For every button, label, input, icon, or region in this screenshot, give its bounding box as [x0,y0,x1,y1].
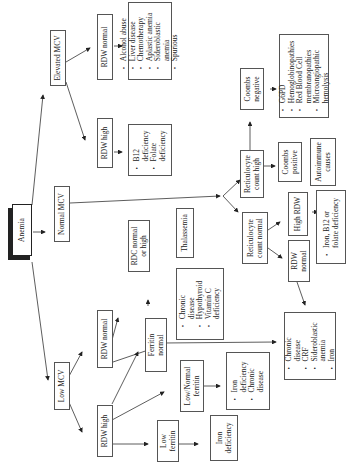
node-label: RDW high [101,127,110,160]
node-elevated-mcv: Elevated MCV [50,30,66,86]
cause-item: anemia [319,322,328,369]
node-elevated-rdw-high: RDW high [97,118,113,168]
node-coombs-negative: Coombsnegative [240,68,264,110]
node-label: or high [139,227,148,266]
cause-item: Spurious [171,13,180,70]
cause-item: disease [257,361,266,400]
node-low-rdw-high: RDW high [97,405,113,457]
node-low-rdw-normal-causes: Chronic disease Hypothyroid Vitamin C de… [176,268,224,340]
node-label: deficiency [224,422,233,453]
node-rdc-normal-or-high: RDC normalor high [128,220,150,272]
cause-item: deficiency [213,281,222,327]
node-label: Low MCV [58,370,67,403]
node-ferritin-normal: Ferritinnormal [145,318,167,372]
node-chronic-causes: Chronic disease CRF Sideroblastic anemia… [284,312,336,380]
node-elevated-rdw-high-causes: B12 deficiency Folate deficiency [128,124,172,176]
node-label: Thalassemia [181,214,190,252]
node-label: positive [290,149,299,174]
node-label: normal [299,250,308,271]
node-label: RDW high [101,415,110,448]
node-autoimmune: Autoimmunecauses [310,138,336,186]
node-label: negative [252,76,261,101]
cause-item: deficiency [159,130,168,169]
node-label: ferritin [192,367,201,406]
node-low-ferritin: Lowferritin [157,420,179,462]
node-label: Normal MCV [58,193,67,235]
node-label: High RDW [294,197,303,231]
node-label: count normal [255,218,264,258]
cause-item: disease [293,322,302,369]
node-label: causes [323,142,332,182]
node-label: Elevated MCV [54,35,63,80]
node-lownormal-ferritin: Low/Normalferritin [180,360,204,412]
node-iron-deficiency: Irondeficiency [210,415,238,461]
node-coombs-positive: Coombspositive [278,142,302,182]
node-coombs-negative-causes: G6PD Hemoglobinopathies Red Blood Cell m… [279,34,329,118]
node-high-rdw: High RDW [288,192,308,236]
cause-item: hemolysis [321,41,330,112]
node-label: normal [156,334,165,357]
cause-item: Iron [327,322,336,369]
node-label: RDW normal [101,319,110,359]
node-anemia: Anemia [12,204,32,256]
node-low-rdw-normal: RDW normal [97,310,113,368]
node-elevated-rdw-normal: RDW normal [97,14,113,80]
node-lownormal-causes: Iron deficiency Chronic disease [226,352,270,410]
node-thalassemia: Thalassemia [176,208,194,258]
node-retic-high: Reticulocytecount high [240,150,264,198]
node-label: count high [252,155,261,193]
node-normal-mcv: Normal MCV [54,186,70,242]
node-elevated-rdw-normal-causes: Alcohol abuse Liver disease Chemotherapy… [128,2,172,80]
node-low-mcv: Low MCV [54,362,70,410]
node-label: RDW normal [101,27,110,67]
node-high-rdw-causes: Iron, B12 or folate deficiency [316,190,346,264]
node-label: Anemia [18,218,27,242]
cause-item: folate deficiency [331,198,340,256]
node-retic-normal-rdw-normal: RDWnormal [288,240,310,282]
node-label: ferritin [168,431,177,452]
node-retic-normal: Reticulocytecount normal [242,212,268,264]
